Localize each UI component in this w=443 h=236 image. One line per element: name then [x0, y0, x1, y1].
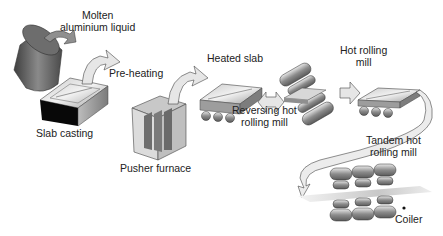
hot-rolling-mill-icon: [358, 88, 420, 118]
label-pusher-furnace: Pusher furnace: [120, 162, 191, 174]
diagram-graphics: [0, 0, 443, 236]
label-reversing-mill: Reversing hot rolling mill: [232, 104, 297, 128]
coiler-dot-icon: [402, 206, 405, 209]
label-hot-rolling-mill: Hot rolling mill: [340, 44, 387, 68]
process-diagram: Molten aluminium liquid Slab casting Pre…: [0, 0, 443, 236]
label-slab-casting: Slab casting: [36, 127, 93, 139]
label-molten: Molten aluminium liquid: [60, 9, 135, 33]
label-coiler: Coiler: [395, 213, 422, 225]
label-heated-slab: Heated slab: [207, 52, 263, 64]
label-pre-heating: Pre-heating: [109, 67, 163, 79]
label-tandem-mill: Tandem hot rolling mill: [366, 134, 421, 158]
right-arrow-icon: [340, 82, 360, 104]
pusher-furnace-icon: [132, 96, 186, 160]
